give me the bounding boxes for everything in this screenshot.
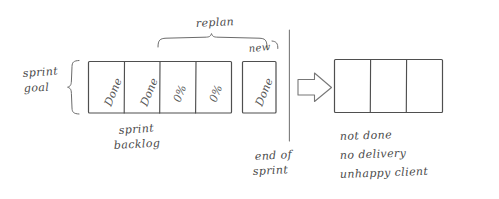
- outcome-line-2: no delivery: [340, 147, 407, 162]
- outcome-line-1: not done: [340, 128, 393, 143]
- outcome-line-3: unhappy client: [340, 165, 429, 181]
- end-of-sprint-label-line2: sprint: [252, 163, 288, 178]
- backlog-cell-label-3: 0%: [171, 83, 190, 104]
- replan-label: replan: [195, 15, 234, 30]
- new-item-label: Done: [252, 76, 275, 109]
- end-of-sprint-label-line1: end of: [254, 148, 293, 163]
- backlog-cell-label-4: 0%: [207, 83, 226, 104]
- diagram-canvas: replan new sprint goal sprint backlog en…: [0, 0, 499, 199]
- backlog-cell-label-1: Done: [101, 76, 124, 109]
- backlog-cell-label-2: Done: [137, 76, 160, 109]
- new-label: new: [248, 41, 271, 54]
- sprint-backlog-label-line2: backlog: [113, 137, 160, 152]
- sprint-goal-label-line1: sprint: [22, 65, 58, 80]
- sprint-backlog-label-line1: sprint: [118, 122, 154, 137]
- diagram-text-layer: replan new sprint goal sprint backlog en…: [0, 0, 499, 199]
- sprint-goal-label-line2: goal: [23, 81, 49, 95]
